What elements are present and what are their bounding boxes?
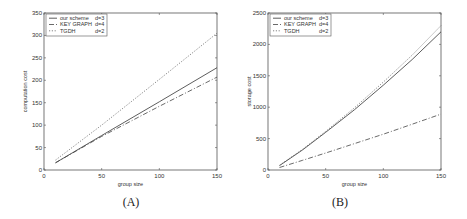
- legend: our schemed=3KEY GRAPHd=4TGDHd=2: [46, 14, 107, 36]
- x-tick-label: 0: [266, 173, 270, 179]
- y-axis-label: storage cost: [246, 76, 252, 106]
- legend-label: our scheme: [284, 15, 313, 21]
- y-tick-label: 2500: [253, 10, 267, 16]
- series-line-key-graph: [280, 114, 442, 167]
- panel-caption: (A): [123, 195, 140, 209]
- legend-param: d=2: [95, 28, 104, 34]
- x-axis-label: group size: [118, 181, 143, 187]
- series-line-our-scheme: [280, 32, 442, 166]
- legend-param: d=4: [319, 21, 328, 27]
- y-tick-label: 50: [35, 145, 42, 151]
- series-line-key-graph: [56, 77, 218, 163]
- x-axis-label: group size: [342, 181, 367, 187]
- x-tick-label: 100: [154, 173, 165, 179]
- legend-label: KEY GRAPH: [284, 21, 316, 27]
- x-tick-label: 50: [98, 173, 105, 179]
- chart-panel-b: 05010015005001000150020002500group sizes…: [246, 10, 447, 209]
- x-tick-label: 50: [322, 173, 329, 179]
- y-tick-label: 1000: [253, 104, 267, 110]
- legend-label: KEY GRAPH: [60, 21, 92, 27]
- legend-param: d=4: [95, 21, 104, 27]
- y-tick-label: 300: [32, 32, 43, 38]
- plot-area: [44, 13, 217, 170]
- plot-area: [268, 13, 441, 170]
- y-tick-label: 500: [256, 136, 267, 142]
- y-tick-label: 350: [32, 10, 43, 16]
- x-tick-label: 100: [378, 173, 389, 179]
- y-tick-label: 100: [32, 122, 43, 128]
- series-line-our-scheme: [56, 68, 218, 163]
- x-tick-label: 150: [436, 173, 447, 179]
- y-tick-label: 2000: [253, 41, 267, 47]
- series-line-tgdh: [56, 33, 218, 160]
- y-tick-label: 250: [32, 55, 43, 61]
- y-tick-label: 200: [32, 77, 43, 83]
- legend: our schemed=3KEY GRAPHd=4TGDHd=2: [270, 14, 331, 36]
- legend-label: TGDH: [284, 28, 300, 34]
- x-tick-label: 150: [212, 173, 223, 179]
- x-tick-label: 0: [42, 173, 46, 179]
- y-tick-label: 150: [32, 100, 43, 106]
- legend-param: d=3: [319, 15, 328, 21]
- legend-param: d=3: [95, 15, 104, 21]
- legend-param: d=2: [319, 28, 328, 34]
- legend-label: TGDH: [60, 28, 76, 34]
- figure: 050100150050100150200250300350group size…: [0, 0, 467, 219]
- panel-caption: (B): [332, 195, 348, 209]
- y-tick-label: 1500: [253, 73, 267, 79]
- series-line-tgdh: [280, 26, 442, 166]
- y-axis-label: computation cost: [22, 70, 28, 112]
- chart-panel-a: 050100150050100150200250300350group size…: [22, 10, 223, 209]
- legend-label: our scheme: [60, 15, 89, 21]
